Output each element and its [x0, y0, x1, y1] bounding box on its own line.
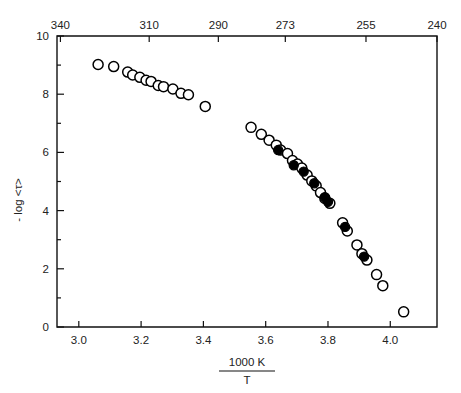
left-axis-tick-labels: 0246810 — [36, 30, 49, 333]
bottom-tick-label-3.8: 3.8 — [320, 334, 336, 346]
bottom-tick-label-3.6: 3.6 — [258, 334, 274, 346]
bottom-axis-tick-labels: 3.03.23.43.63.84.0 — [71, 334, 398, 346]
bottom-tick-label-3.4: 3.4 — [195, 334, 212, 346]
data-point-open — [93, 60, 103, 70]
data-point-open — [109, 62, 119, 72]
top-tick-label-273: 273 — [276, 19, 295, 31]
data-point-open — [372, 270, 382, 280]
data-point-filled — [299, 167, 308, 176]
x-axis-title-denominator: T — [243, 374, 250, 386]
top-axis-tick-labels: 340310290273255240 — [51, 19, 447, 31]
top-tick-label-255: 255 — [356, 19, 375, 31]
data-point-filled — [274, 145, 283, 154]
top-axis-ticks — [60, 36, 437, 42]
data-point-open — [399, 307, 409, 317]
left-tick-label-0: 0 — [43, 321, 49, 333]
left-tick-label-2: 2 — [43, 263, 49, 275]
y-axis-title-text: - log <τ> — [12, 178, 24, 222]
data-point-filled — [310, 179, 319, 188]
data-point-filled — [360, 252, 369, 261]
left-tick-label-10: 10 — [36, 30, 49, 42]
top-tick-label-340: 340 — [51, 19, 70, 31]
data-series-open-circles — [93, 60, 409, 317]
left-tick-label-6: 6 — [43, 146, 49, 158]
data-point-filled — [341, 222, 350, 231]
data-point-open — [246, 122, 256, 132]
bottom-tick-label-3.0: 3.0 — [71, 334, 87, 346]
x-axis-title-numerator: 1000 K — [229, 356, 266, 368]
data-point-open — [200, 101, 210, 111]
bottom-axis-ticks — [79, 321, 390, 327]
left-tick-label-4: 4 — [43, 205, 50, 217]
top-tick-label-240: 240 — [427, 19, 446, 31]
top-tick-label-290: 290 — [209, 19, 228, 31]
data-point-filled — [289, 161, 298, 170]
data-point-open — [159, 82, 169, 92]
bottom-tick-label-3.2: 3.2 — [133, 334, 149, 346]
plot-svg: 340310290273255240 3.03.23.43.63.84.0 02… — [0, 0, 461, 393]
top-tick-label-310: 310 — [140, 19, 159, 31]
scatter-plot-figure: 340310290273255240 3.03.23.43.63.84.0 02… — [0, 0, 461, 393]
data-point-open — [378, 281, 388, 291]
bottom-tick-label-4.0: 4.0 — [382, 334, 398, 346]
data-point-filled — [323, 197, 332, 206]
y-axis-title: - log <τ> — [12, 178, 24, 222]
data-point-open — [183, 90, 193, 100]
left-tick-label-8: 8 — [43, 88, 49, 100]
x-axis-title: 1000 K T — [219, 356, 275, 386]
